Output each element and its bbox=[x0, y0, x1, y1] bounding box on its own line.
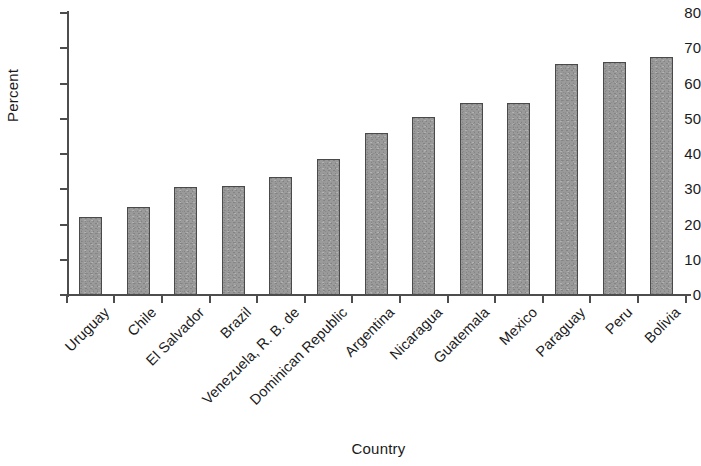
bar bbox=[127, 207, 150, 295]
bar-chart: Percent 01020304050607080 UruguayChileEl… bbox=[0, 0, 701, 466]
bar bbox=[222, 186, 245, 295]
y-axis-tick bbox=[60, 153, 67, 155]
x-axis-tick bbox=[113, 296, 115, 303]
y-axis-tick-label: 80 bbox=[649, 5, 701, 20]
x-axis-tick bbox=[542, 296, 544, 303]
y-axis-tick bbox=[60, 47, 67, 49]
y-axis-tick bbox=[60, 259, 67, 261]
x-axis-tick bbox=[209, 296, 211, 303]
bar bbox=[555, 64, 578, 295]
x-axis-tick bbox=[351, 296, 353, 303]
y-axis-spine bbox=[67, 11, 69, 297]
bar bbox=[365, 133, 388, 295]
y-axis-tick bbox=[60, 12, 67, 14]
bar bbox=[269, 177, 292, 295]
x-axis-tick bbox=[161, 296, 163, 303]
x-axis-title: Country bbox=[0, 440, 701, 457]
x-axis-tick bbox=[589, 296, 591, 303]
bar bbox=[650, 57, 673, 295]
bar bbox=[603, 62, 626, 295]
x-axis-tick bbox=[256, 296, 258, 303]
y-axis-tick bbox=[60, 118, 67, 120]
x-axis-tick bbox=[66, 296, 68, 303]
bar bbox=[174, 187, 197, 295]
x-axis-tick bbox=[399, 296, 401, 303]
x-axis-tick bbox=[637, 296, 639, 303]
bar bbox=[79, 217, 102, 295]
bar bbox=[317, 159, 340, 295]
y-axis-tick bbox=[60, 83, 67, 85]
bar bbox=[412, 117, 435, 295]
y-axis-tick bbox=[60, 188, 67, 190]
x-axis-tick bbox=[447, 296, 449, 303]
bar bbox=[507, 103, 530, 295]
x-axis-title-text: Country bbox=[352, 440, 406, 457]
y-axis-tick-label: 70 bbox=[649, 40, 701, 55]
bar bbox=[460, 103, 483, 295]
y-axis-title: Percent bbox=[2, 12, 24, 122]
x-axis-tick bbox=[494, 296, 496, 303]
x-axis-tick bbox=[304, 296, 306, 303]
y-axis-tick bbox=[60, 224, 67, 226]
x-axis-tick bbox=[685, 296, 687, 303]
